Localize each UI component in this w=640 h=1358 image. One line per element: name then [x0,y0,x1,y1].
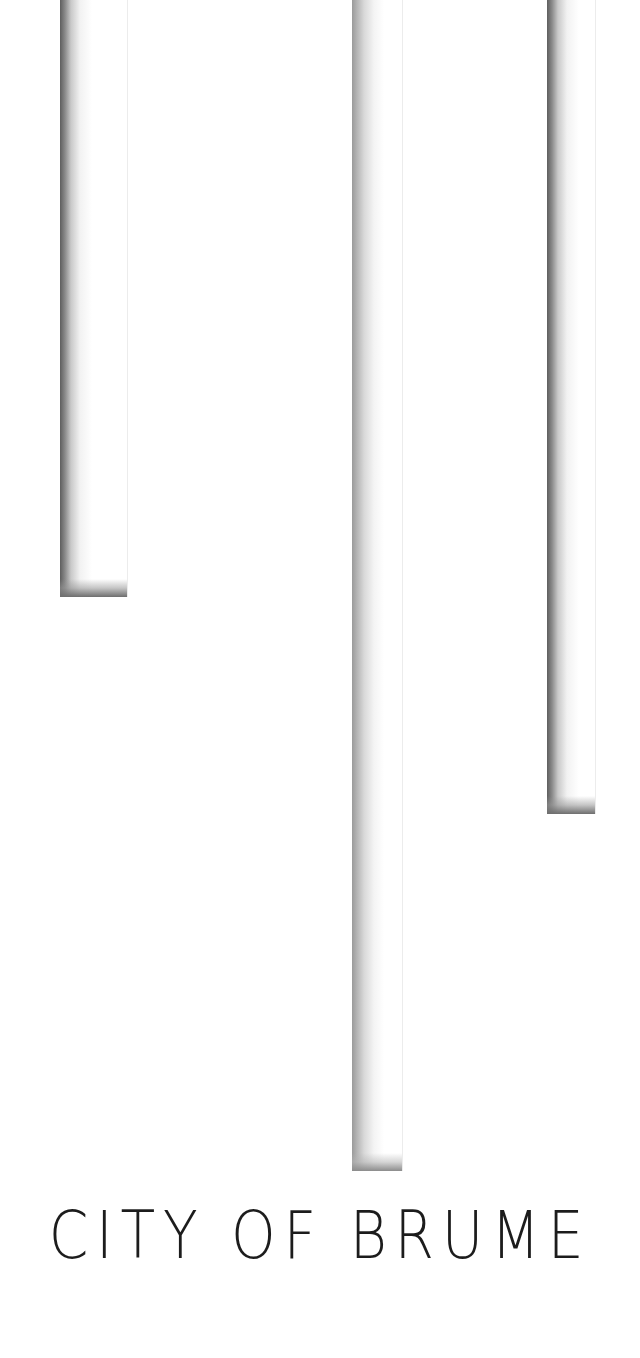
right-hanging-bar [547,0,596,814]
middle-hanging-bar [352,0,403,1171]
left-hanging-bar [60,0,128,597]
poster-title: CITY OF BRUME [45,1196,595,1276]
